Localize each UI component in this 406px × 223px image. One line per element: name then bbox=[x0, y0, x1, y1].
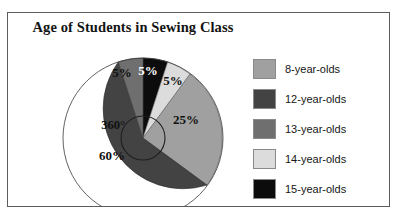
legend-item-label: 13-year-olds bbox=[285, 123, 346, 135]
legend-item-label: 15-year-olds bbox=[285, 183, 346, 195]
pie-label-total-angle: 360° bbox=[101, 118, 125, 132]
legend-swatch-icon bbox=[253, 89, 276, 109]
pie-chart-svg: 5% 5% 5% 25% 60% 360° bbox=[56, 41, 231, 206]
pie-chart: 5% 5% 5% 25% 60% 360° bbox=[56, 41, 231, 206]
pie-label-13-year-olds: 5% bbox=[112, 65, 132, 80]
chart-legend: 8-year-olds 12-year-olds 13-year-olds 14… bbox=[253, 54, 388, 204]
legend-item[interactable]: 14-year-olds bbox=[253, 144, 388, 174]
legend-swatch-icon bbox=[253, 59, 276, 79]
legend-item-label: 14-year-olds bbox=[285, 153, 346, 165]
chart-title: Age of Students in Sewing Class bbox=[8, 19, 258, 36]
legend-item[interactable]: 8-year-olds bbox=[253, 54, 388, 84]
legend-swatch-icon bbox=[253, 119, 276, 139]
legend-item[interactable]: 15-year-olds bbox=[253, 174, 388, 204]
pie-label-14-year-olds: 5% bbox=[163, 73, 183, 88]
legend-item-label: 8-year-olds bbox=[285, 63, 340, 75]
legend-item[interactable]: 13-year-olds bbox=[253, 114, 388, 144]
chart-frame: Age of Students in Sewing Class 5% 5% 5%… bbox=[7, 12, 390, 207]
legend-item[interactable]: 12-year-olds bbox=[253, 84, 388, 114]
legend-swatch-icon bbox=[253, 149, 276, 169]
pie-label-8-year-olds: 25% bbox=[173, 112, 199, 127]
chart-screenshot: Age of Students in Sewing Class 5% 5% 5%… bbox=[0, 0, 406, 223]
legend-swatch-icon bbox=[253, 179, 276, 199]
pie-label-12-year-olds: 60% bbox=[99, 148, 125, 163]
legend-item-label: 12-year-olds bbox=[285, 93, 346, 105]
pie-label-15-year-olds: 5% bbox=[138, 63, 158, 78]
